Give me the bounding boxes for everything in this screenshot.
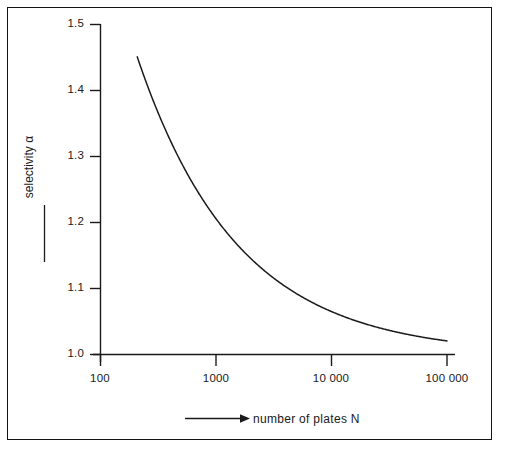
x-tick-marks: [101, 355, 448, 367]
x-axis-title: number of plates N: [253, 412, 360, 426]
y-tick-label: 1.3: [44, 149, 84, 161]
figure-page: 1.5 1.4 1.3 1.2 1.1 1.0 100 1000 10 000 …: [0, 0, 505, 449]
y-tick-label: 1.0: [44, 347, 84, 359]
y-tick-marks: [90, 25, 101, 355]
x-axis-arrow-icon: [185, 414, 250, 423]
y-tick-label: 1.4: [44, 83, 84, 95]
x-tick-label: 1000: [171, 372, 261, 384]
selectivity-curve: [137, 57, 447, 341]
y-tick-label: 1.2: [44, 215, 84, 227]
y-tick-label: 1.1: [44, 281, 84, 293]
y-tick-label: 1.5: [44, 17, 84, 29]
x-tick-label: 100: [55, 372, 145, 384]
x-tick-label: 10 000: [286, 372, 376, 384]
y-axis-title: selectivity α: [22, 112, 36, 222]
x-tick-label: 100 000: [402, 372, 492, 384]
